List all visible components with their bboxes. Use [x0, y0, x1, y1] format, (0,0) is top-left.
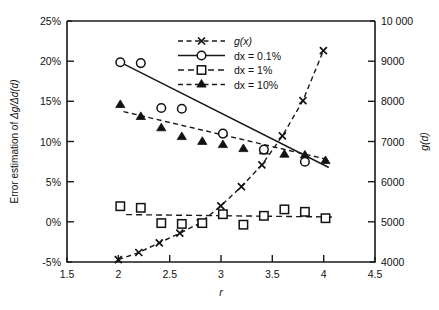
legend-item-dx1[interactable]: dx = 1%: [178, 64, 272, 76]
y2-axis-title: g(d): [418, 132, 430, 151]
x-tick-label: 4: [321, 268, 327, 280]
legend-label-dx01: dx = 0.1%: [234, 50, 281, 62]
y-tick-label: 5%: [46, 176, 61, 188]
x-axis-ticks: [67, 255, 375, 262]
series-dx01-trendline: [124, 64, 329, 168]
legend-marker-square-icon: [197, 66, 205, 74]
y2-tick-label: 8000: [381, 95, 405, 107]
x-axis-title: r: [219, 286, 223, 298]
y-axis-right-tick-labels: 10 000 9000 8000 7000 6000 5000 4000: [381, 15, 413, 268]
legend-marker-circle-icon: [197, 51, 206, 60]
y2-tick-label: 9000: [381, 55, 405, 67]
x-tick-label: 3: [218, 268, 224, 280]
x-tick-label: 4.5: [368, 268, 383, 280]
x-tick-label: 2: [115, 268, 121, 280]
chart-figure: 25% 20% 15% 10% 5% 0% -5% 10 000 9000 80…: [0, 0, 439, 310]
y-axis-left-tick-labels: 25% 20% 15% 10% 5% 0% -5%: [40, 15, 61, 268]
y-axis-title-math: Δg/Δd(d): [9, 79, 20, 120]
x-tick-label: 2.5: [162, 268, 177, 280]
chart-legend: g(x) dx = 0.1% dx = 1% dx = 10%: [178, 35, 281, 91]
x-tick-label: 1.5: [60, 268, 75, 280]
y2-tick-label: 7000: [381, 136, 405, 148]
x-tick-label: 3.5: [265, 268, 280, 280]
legend-item-gx[interactable]: g(x): [178, 35, 252, 47]
y-tick-label: -5%: [42, 256, 61, 268]
y-tick-label: 20%: [40, 55, 61, 67]
legend-item-dx10[interactable]: dx = 10%: [178, 79, 278, 91]
y2-tick-label: 6000: [381, 176, 405, 188]
axis-frame-path: [67, 21, 375, 262]
y-tick-label: 10%: [40, 136, 61, 148]
y-tick-label: 0%: [46, 216, 61, 228]
y-tick-label: 15%: [40, 95, 61, 107]
legend-item-dx01[interactable]: dx = 0.1%: [178, 50, 281, 62]
y2-tick-label: 4000: [381, 256, 405, 268]
series-gx-line: [118, 51, 323, 260]
y-tick-label: 25%: [40, 15, 61, 27]
y-axis-title-prefix: Error estimation of: [9, 119, 20, 203]
y-axis-right-ticks: [368, 21, 375, 262]
series-dx01: [116, 58, 329, 168]
legend-label-dx1: dx = 1%: [234, 64, 272, 76]
legend-marker-triangle-icon: [197, 80, 206, 88]
y-axis-left-ticks: [67, 21, 74, 262]
legend-label-gx: g(x): [234, 35, 252, 47]
y2-tick-label: 10 000: [381, 15, 413, 27]
legend-label-dx10: dx = 10%: [234, 79, 278, 91]
y2-tick-label: 5000: [381, 216, 405, 228]
series-dx1: [116, 202, 332, 229]
chart-canvas: 25% 20% 15% 10% 5% 0% -5% 10 000 9000 80…: [0, 0, 439, 310]
x-axis-tick-labels: 1.5 2 2.5 3 3.5 4 4.5: [60, 268, 383, 280]
series-gx-markers: [115, 47, 327, 263]
axes-frame: [67, 21, 375, 262]
y-axis-title: Error estimation of Δg/Δd(d): [9, 79, 20, 203]
series-gx: [115, 47, 327, 263]
